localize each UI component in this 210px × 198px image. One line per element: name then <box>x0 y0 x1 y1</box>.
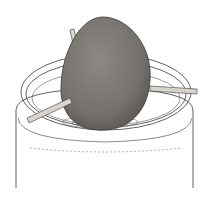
illustration-canvas <box>0 0 210 198</box>
avocado-jar-illustration <box>0 0 210 198</box>
toothpick-right <box>150 86 197 94</box>
